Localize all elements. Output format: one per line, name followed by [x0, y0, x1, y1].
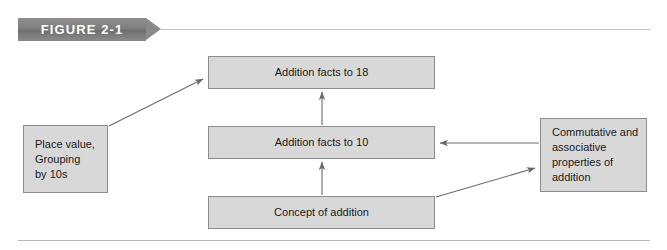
- figure-number-banner: FIGURE 2-1: [18, 18, 146, 41]
- figure-container: FIGURE 2-1 Addition facts to 18 Addition…: [0, 0, 667, 250]
- edge-concept-to-props: [436, 168, 535, 197]
- edge-place-to-facts18: [109, 79, 203, 126]
- node-label: Addition facts to 10: [275, 135, 369, 150]
- node-addition-facts-18[interactable]: Addition facts to 18: [208, 56, 435, 89]
- node-label: Addition facts to 18: [275, 65, 369, 80]
- banner-arrow-icon: [146, 18, 161, 40]
- figure-bottom-rule: [18, 240, 650, 241]
- figure-number-label: FIGURE 2-1: [41, 22, 124, 37]
- figure-top-rule: [161, 29, 650, 30]
- node-label: Place value, Grouping by 10s: [35, 137, 95, 182]
- node-label: Commutative and associative properties o…: [552, 125, 638, 185]
- node-label: Concept of addition: [274, 205, 369, 220]
- node-addition-facts-10[interactable]: Addition facts to 10: [208, 126, 435, 159]
- node-commutative-associative-properties[interactable]: Commutative and associative properties o…: [540, 118, 647, 192]
- node-concept-of-addition[interactable]: Concept of addition: [208, 196, 435, 229]
- node-place-value-grouping[interactable]: Place value, Grouping by 10s: [23, 125, 108, 193]
